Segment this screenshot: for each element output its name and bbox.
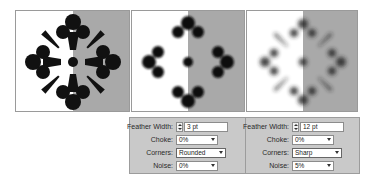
feathered-ornament-icon bbox=[132, 11, 245, 112]
flower-ornament-icon bbox=[16, 11, 130, 112]
dropdown-arrow-icon bbox=[219, 151, 223, 154]
feather-width-label: Feather Width: bbox=[127, 123, 173, 130]
preview-feather-rounded bbox=[131, 10, 245, 112]
choke-dropdown[interactable]: 0% bbox=[292, 135, 334, 145]
corners-label: Corners: bbox=[262, 149, 289, 156]
feather-width-row: Feather Width: 3 pt bbox=[130, 122, 245, 134]
feather-width-label: Feather Width: bbox=[243, 123, 289, 130]
dropdown-arrow-icon bbox=[327, 164, 331, 167]
corners-row: Corners: Rounded bbox=[130, 148, 245, 160]
dropdown-arrow-icon bbox=[327, 138, 331, 141]
noise-dropdown[interactable]: 5% bbox=[292, 161, 334, 171]
choke-value: 0% bbox=[179, 136, 188, 143]
noise-label: Noise: bbox=[269, 162, 289, 169]
noise-value: 0% bbox=[179, 162, 188, 169]
heavily-feathered-ornament-icon bbox=[247, 11, 358, 112]
noise-dropdown[interactable]: 0% bbox=[176, 161, 218, 171]
feather-width-input[interactable]: 3 pt bbox=[184, 122, 228, 132]
stepper-down-icon[interactable] bbox=[178, 128, 182, 130]
choke-row: Choke: 0% bbox=[246, 135, 359, 147]
dropdown-arrow-icon bbox=[211, 138, 215, 141]
feather-width-stepper[interactable] bbox=[176, 122, 183, 132]
corners-label: Corners: bbox=[146, 149, 173, 156]
feather-width-input[interactable]: 12 pt bbox=[300, 122, 344, 132]
corners-row: Corners: Sharp bbox=[246, 148, 359, 160]
noise-row: Noise: 5% bbox=[246, 161, 359, 173]
noise-label: Noise: bbox=[153, 162, 173, 169]
corners-dropdown[interactable]: Rounded bbox=[176, 148, 226, 158]
dropdown-arrow-icon bbox=[335, 151, 339, 154]
corners-dropdown[interactable]: Sharp bbox=[292, 148, 342, 158]
preview-feather-sharp-noise bbox=[246, 10, 358, 112]
feather-settings-panel-2: Feather Width: 12 pt Choke: 0% Corners: … bbox=[245, 117, 360, 174]
choke-value: 0% bbox=[295, 136, 304, 143]
corners-value: Rounded bbox=[179, 149, 205, 156]
stepper-down-icon[interactable] bbox=[294, 128, 298, 130]
dropdown-arrow-icon bbox=[211, 164, 215, 167]
choke-label: Choke: bbox=[267, 136, 289, 143]
choke-dropdown[interactable]: 0% bbox=[176, 135, 218, 145]
corners-value: Sharp bbox=[295, 149, 312, 156]
choke-row: Choke: 0% bbox=[130, 135, 245, 147]
noise-row: Noise: 0% bbox=[130, 161, 245, 173]
stepper-up-icon[interactable] bbox=[178, 124, 182, 126]
noise-value: 5% bbox=[295, 162, 304, 169]
preview-original bbox=[15, 10, 130, 112]
feather-settings-panel-1: Feather Width: 3 pt Choke: 0% Corners: R… bbox=[129, 117, 246, 174]
feather-width-stepper[interactable] bbox=[292, 122, 299, 132]
stepper-up-icon[interactable] bbox=[294, 124, 298, 126]
choke-label: Choke: bbox=[151, 136, 173, 143]
feather-width-row: Feather Width: 12 pt bbox=[246, 122, 359, 134]
